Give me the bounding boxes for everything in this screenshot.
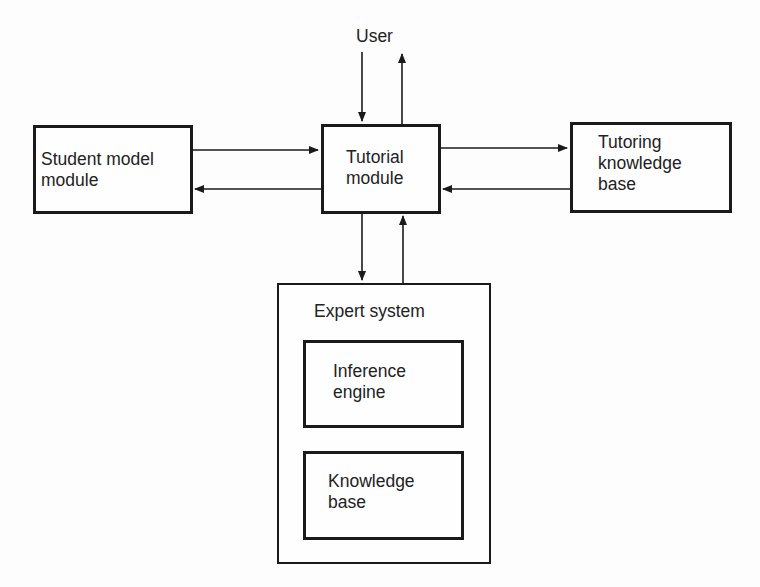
student-model-module-box: Student model module bbox=[33, 125, 193, 214]
expert-system-label: Expert system bbox=[314, 301, 425, 322]
tutorial-module-box: Tutorial module bbox=[321, 124, 441, 214]
knowledge-base-label: Knowledge base bbox=[328, 471, 415, 513]
inference-engine-label: Inference engine bbox=[333, 361, 406, 403]
inference-engine-box: Inference engine bbox=[303, 340, 464, 428]
student-model-module-label: Student model module bbox=[41, 149, 154, 191]
user-label: User bbox=[356, 26, 393, 47]
tutorial-module-label: Tutorial module bbox=[346, 147, 404, 189]
expert-system-box: Expert system Inference engine Knowledge… bbox=[277, 283, 491, 564]
tutoring-knowledge-base-label: Tutoring knowledge base bbox=[598, 132, 682, 195]
tutoring-knowledge-base-box: Tutoring knowledge base bbox=[570, 122, 732, 213]
knowledge-base-box: Knowledge base bbox=[303, 451, 464, 540]
